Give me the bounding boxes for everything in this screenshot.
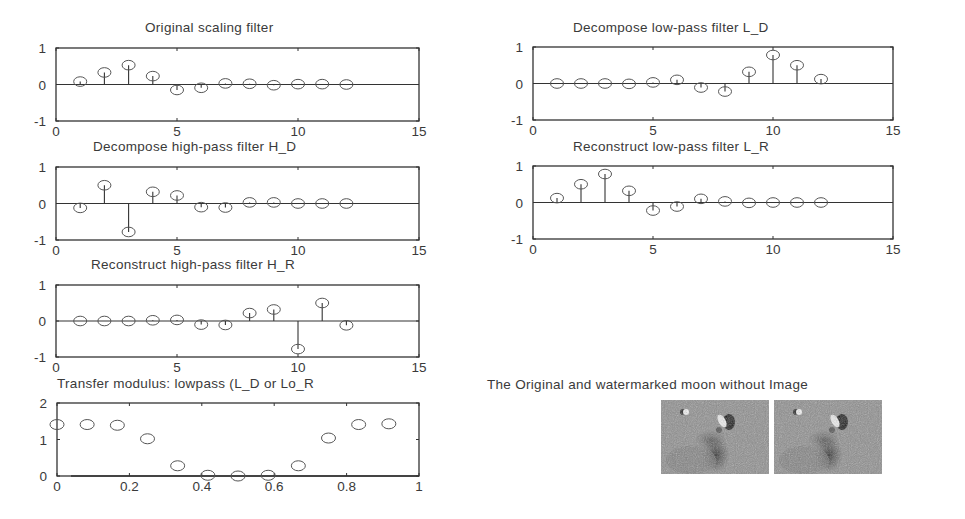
- x-tick-label: 15: [411, 360, 426, 375]
- x-tick-label: 15: [411, 124, 426, 139]
- x-tick-label: 0: [529, 242, 537, 257]
- x-tick-label: 10: [765, 123, 780, 138]
- watermarked-moon-image: [774, 400, 882, 474]
- y-tick-label: 1: [38, 41, 46, 56]
- y-tick-label: 1: [515, 159, 523, 174]
- x-tick-label: 0: [52, 124, 60, 139]
- x-tick-label: 5: [649, 123, 657, 138]
- y-tick-label: 1: [39, 433, 47, 448]
- image-panel-title: The Original and watermarked moon withou…: [487, 377, 808, 392]
- x-tick-label: 0.4: [192, 479, 211, 494]
- scatter-marker: [291, 461, 305, 471]
- y-tick-label: 1: [515, 40, 523, 55]
- y-tick-label: 0: [38, 78, 46, 93]
- y-tick-label: 0: [39, 469, 47, 484]
- x-tick-label: 0.8: [337, 479, 356, 494]
- x-tick-label: 15: [885, 123, 900, 138]
- x-tick-label: 0: [52, 360, 60, 375]
- y-tick-label: 0: [515, 77, 523, 92]
- x-tick-label: 0.6: [265, 479, 284, 494]
- x-tick-label: 5: [173, 360, 181, 375]
- y-tick-label: 1: [38, 160, 46, 175]
- x-tick-label: 10: [290, 243, 305, 258]
- x-tick-label: 0: [529, 123, 537, 138]
- axes-box: [57, 403, 419, 476]
- x-tick-label: 0: [52, 243, 60, 258]
- y-tick-label: -1: [511, 232, 523, 247]
- chart-3: 051015-101: [511, 159, 901, 257]
- x-tick-label: 5: [173, 243, 181, 258]
- scatter-marker: [80, 420, 94, 430]
- scatter-marker: [352, 420, 366, 430]
- scatter-marker: [110, 420, 124, 430]
- y-tick-label: -1: [34, 350, 46, 365]
- x-tick-label: 1: [415, 479, 423, 494]
- x-tick-label: 15: [885, 242, 900, 257]
- x-tick-label: 10: [765, 242, 780, 257]
- y-tick-label: -1: [34, 114, 46, 129]
- original-moon-image: [661, 400, 769, 474]
- y-tick-label: -1: [511, 113, 523, 128]
- chart-4: 051015-101: [34, 278, 427, 375]
- scatter-marker: [141, 434, 155, 444]
- stem-marker: [243, 79, 256, 89]
- chart-2: 051015-101: [34, 160, 427, 258]
- y-tick-label: 0: [38, 197, 46, 212]
- y-tick-label: 1: [38, 278, 46, 293]
- chart-0: 051015-101: [34, 41, 427, 139]
- x-tick-label: 5: [649, 242, 657, 257]
- x-tick-label: 10: [290, 124, 305, 139]
- x-tick-label: 0.2: [120, 479, 139, 494]
- x-tick-label: 15: [411, 243, 426, 258]
- x-tick-label: 5: [173, 124, 181, 139]
- scatter-marker: [171, 461, 185, 471]
- y-tick-label: 0: [38, 314, 46, 329]
- y-tick-label: 0: [515, 196, 523, 211]
- x-tick-label: 10: [290, 360, 305, 375]
- scatter-marker: [382, 419, 396, 429]
- y-tick-label: -1: [34, 233, 46, 248]
- chart-5: 00.20.40.60.81012: [39, 396, 422, 494]
- scatter-marker: [322, 433, 336, 443]
- chart-1: 051015-101: [511, 40, 901, 138]
- y-tick-label: 2: [39, 396, 47, 411]
- x-tick-label: 0: [53, 479, 61, 494]
